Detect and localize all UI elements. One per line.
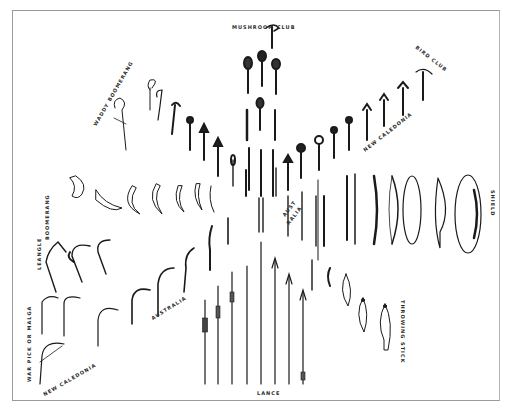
- throwing-sticks: [328, 268, 390, 350]
- right-club-diagonal: [276, 69, 432, 196]
- shields: [347, 174, 481, 253]
- label-lance: LANCE: [257, 390, 280, 396]
- label-throwing-stick: THROWING STICK: [400, 300, 406, 364]
- weapons-plate: MUSHROOM CLUB BIRD CLUB WADDY BOOMERANG …: [0, 0, 509, 414]
- label-boomerang: BOOMERANG: [44, 194, 50, 240]
- spear-shafts: [259, 180, 324, 290]
- left-club-diagonal: [114, 80, 246, 196]
- mushroom-clubs: [244, 25, 280, 196]
- label-war-pick: WAR PICK OR MALGA: [26, 306, 32, 382]
- label-shield: SHIELD: [490, 190, 496, 216]
- boomerangs: [70, 176, 214, 214]
- australia-clubs: [132, 218, 228, 324]
- leangles: [46, 240, 110, 292]
- label-leangle: LEANGLE: [36, 238, 42, 270]
- label-mushroom-club: MUSHROOM CLUB: [232, 24, 295, 30]
- lances: [203, 242, 307, 384]
